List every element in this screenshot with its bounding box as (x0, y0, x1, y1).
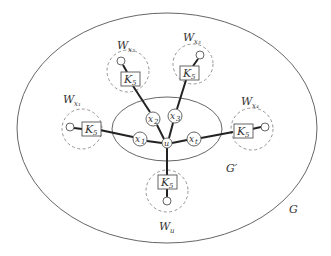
k5-box-Wx3: K 5 (180, 66, 199, 81)
vertex-x1: x 1 (133, 132, 147, 146)
label-G-prime: G′ (226, 162, 238, 175)
label-G: G (289, 203, 298, 216)
leaf-vertex-Wx1 (66, 123, 74, 131)
edge-leaf-K5-Wx1 (74, 128, 82, 129)
svg-text:5: 5 (191, 73, 196, 81)
svg-text:u: u (164, 139, 169, 148)
label-Wx1: W x₁ (63, 93, 81, 108)
svg-text:x: x (135, 134, 140, 144)
edge-x2-u (157, 125, 164, 139)
svg-text:x₄: x₄ (252, 102, 259, 110)
svg-text:5: 5 (245, 131, 250, 139)
svg-text:2: 2 (153, 118, 159, 126)
edge-xt-u (172, 140, 187, 143)
vertex-u: u (162, 138, 172, 148)
edge-leaf-K5-Wx2 (123, 65, 127, 72)
label-Wx2: W x₂ (117, 39, 135, 54)
svg-text:3: 3 (176, 115, 181, 123)
svg-text:x: x (170, 111, 175, 121)
svg-text:5: 5 (93, 129, 98, 137)
vertex-x3: x 3 (168, 109, 182, 123)
k5-box-Wx2: K 5 (121, 72, 140, 87)
edge-K5-xt (201, 132, 233, 138)
svg-text:5: 5 (132, 79, 137, 87)
svg-text:5: 5 (169, 182, 174, 190)
graph-diagram: K 5 K 5 K 5 K 5 K 5 x 1 x 2 x 3 x t (0, 0, 331, 256)
k5-box-Wx1: K 5 (82, 122, 101, 137)
leaf-vertex-Wx4 (261, 123, 269, 131)
edge-K5-x1 (100, 130, 133, 137)
label-Wu: W u (159, 220, 175, 235)
svg-text:t: t (195, 138, 198, 146)
leaf-vertex-Wu (163, 197, 171, 205)
k5-box-Wx4: K 5 (234, 124, 253, 139)
svg-text:u: u (170, 227, 175, 235)
vertex-x2: x 2 (146, 112, 160, 126)
svg-text:x: x (189, 134, 194, 144)
label-Wx4: W x₄ (241, 95, 259, 110)
svg-text:x₂: x₂ (128, 46, 135, 54)
edge-K5-x3 (177, 80, 186, 109)
svg-text:x₁: x₁ (74, 100, 81, 108)
label-Wx3: W x₃ (183, 31, 201, 46)
edge-x3-u (169, 123, 173, 138)
svg-text:1: 1 (141, 138, 145, 146)
edge-leaf-K5-Wx3 (193, 59, 198, 66)
svg-text:x₃: x₃ (194, 38, 201, 46)
leaf-vertex-Wx2 (117, 57, 125, 65)
leaf-vertex-Wx3 (196, 51, 204, 59)
vertex-xt: x t (187, 132, 201, 146)
k5-box-Wu: K 5 (158, 175, 177, 190)
edge-x1-u (147, 141, 162, 143)
svg-text:x: x (148, 114, 153, 124)
